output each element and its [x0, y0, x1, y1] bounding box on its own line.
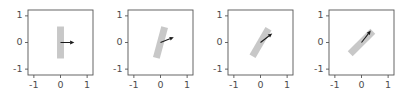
- panel-canvas: -10110-1: [0, 0, 101, 109]
- x-tick-label: 1: [184, 79, 190, 90]
- plot-panel-4: -10110-1: [301, 0, 402, 109]
- y-tick-label: 1: [216, 9, 222, 20]
- x-tick-label: 0: [257, 79, 263, 90]
- x-tick-label: -1: [330, 79, 339, 90]
- panel-canvas: -10110-1: [100, 0, 201, 109]
- y-tick-label: 1: [116, 9, 122, 20]
- x-tick-label: 1: [385, 79, 391, 90]
- panel-canvas: -10110-1: [200, 0, 301, 109]
- x-tick-label: 1: [284, 79, 290, 90]
- x-tick-label: -1: [129, 79, 138, 90]
- y-tick-label: 0: [16, 36, 22, 47]
- y-tick-label: 0: [116, 36, 122, 47]
- plot-panel-3: -10110-1: [200, 0, 301, 109]
- y-tick-label: 1: [317, 9, 323, 20]
- x-tick-label: 0: [358, 79, 364, 90]
- plot-panel-2: -10110-1: [100, 0, 201, 109]
- y-tick-label: 0: [216, 36, 222, 47]
- y-tick-label: -1: [314, 63, 323, 74]
- x-tick-label: 1: [84, 79, 90, 90]
- y-tick-label: -1: [113, 63, 122, 74]
- figure-multipanel-plot: -10110-1-10110-1-10110-1-10110-1: [0, 0, 404, 109]
- x-tick-label: -1: [29, 79, 38, 90]
- y-tick-label: -1: [213, 63, 222, 74]
- y-tick-label: 0: [317, 36, 323, 47]
- x-tick-label: -1: [229, 79, 238, 90]
- x-tick-label: 0: [157, 79, 163, 90]
- plot-panel-1: -10110-1: [0, 0, 101, 109]
- x-tick-label: 0: [57, 79, 63, 90]
- y-tick-label: -1: [13, 63, 22, 74]
- y-tick-label: 1: [16, 9, 22, 20]
- panel-canvas: -10110-1: [301, 0, 402, 109]
